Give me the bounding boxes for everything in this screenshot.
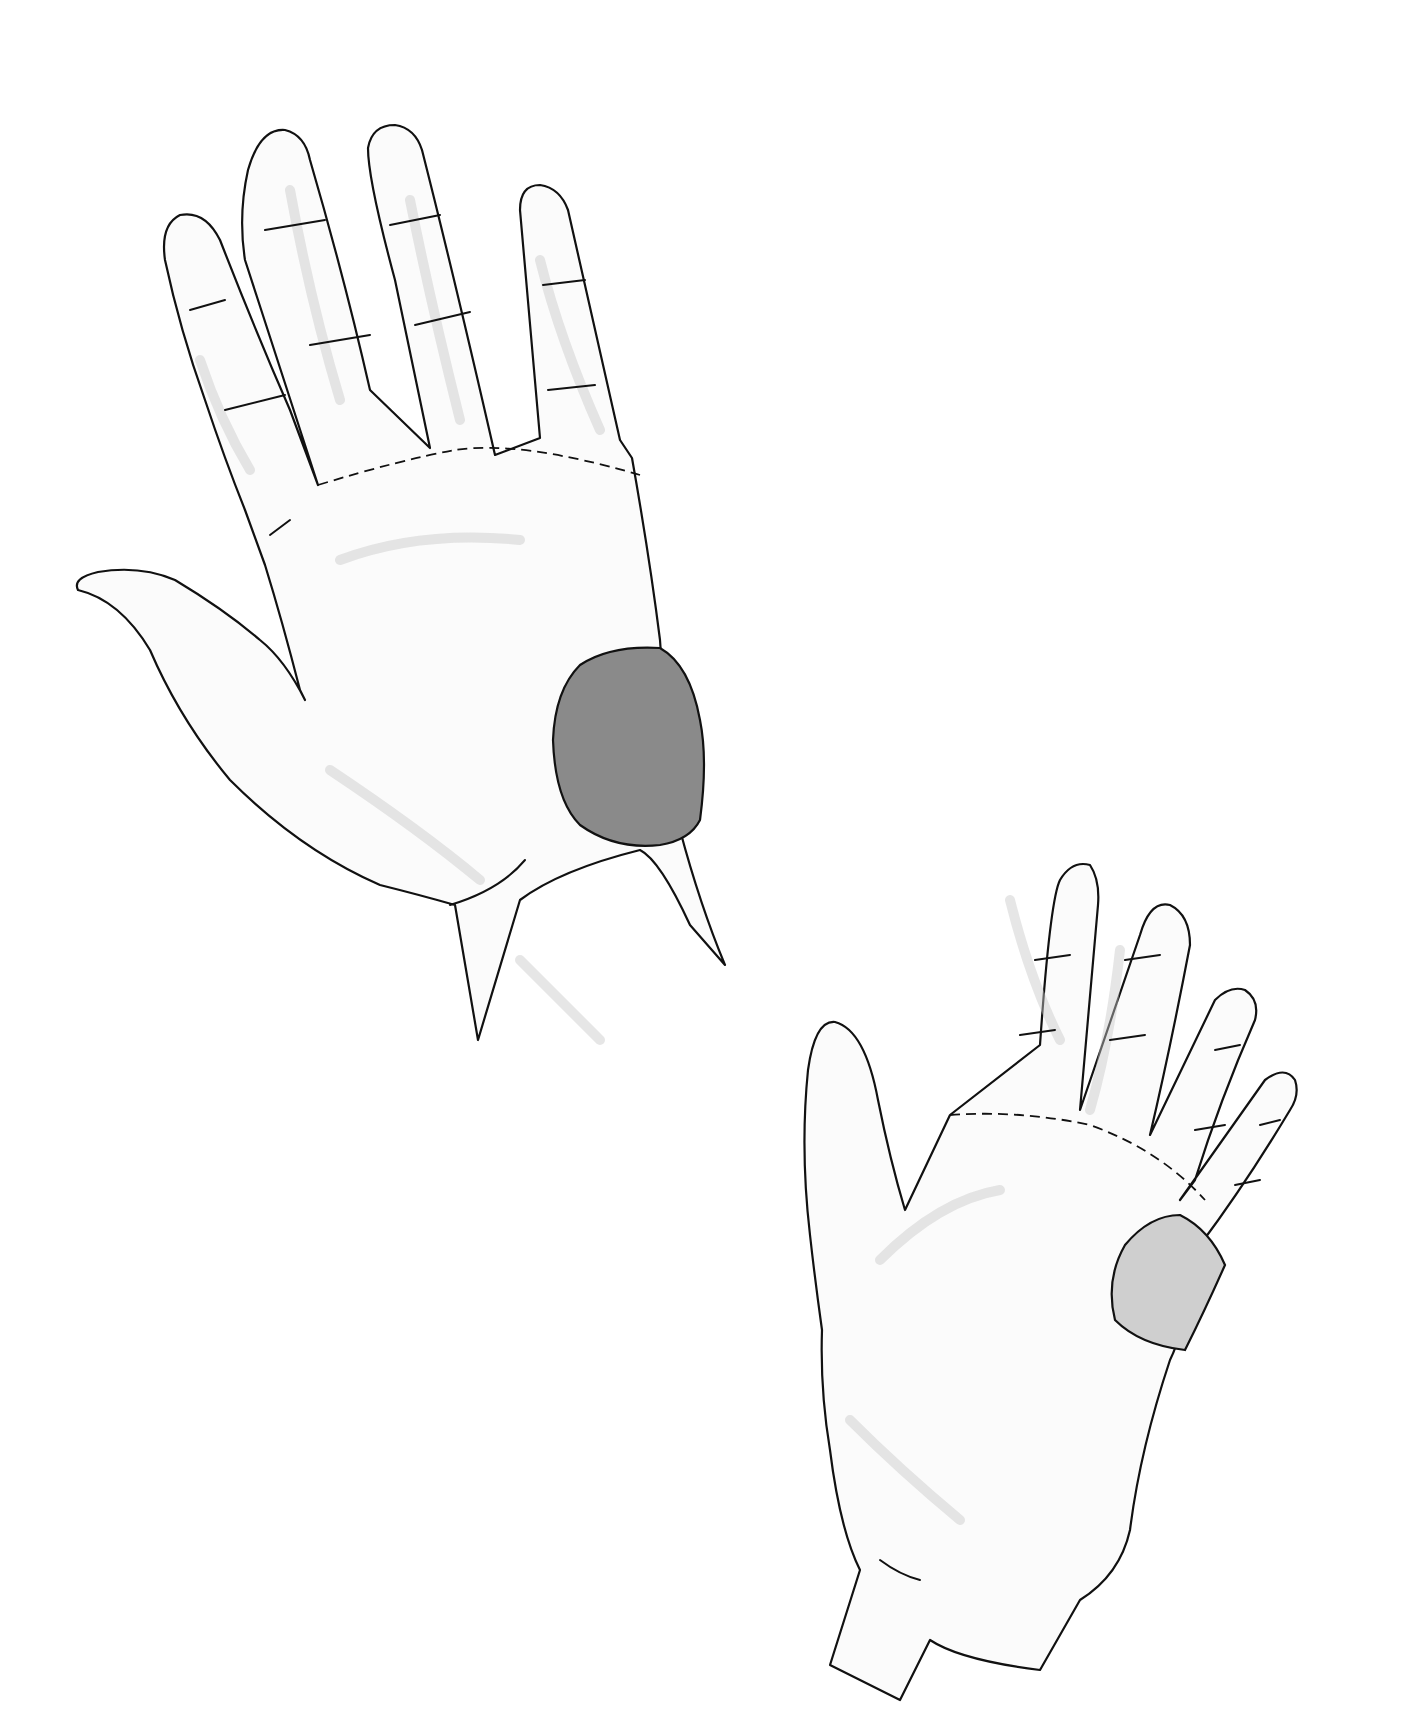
small-hand-outline bbox=[804, 864, 1296, 1700]
large-hand-highlight-region bbox=[553, 648, 704, 846]
illustration-canvas bbox=[0, 0, 1421, 1714]
large-hand-outline bbox=[77, 125, 725, 1040]
small-hand bbox=[804, 864, 1296, 1700]
large-hand bbox=[77, 125, 725, 1040]
hands-illustration bbox=[0, 0, 1421, 1714]
